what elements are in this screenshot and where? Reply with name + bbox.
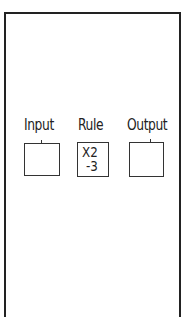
rule-box: X2 -3 xyxy=(77,142,109,177)
rule-operation-subtract: -3 xyxy=(86,159,98,173)
rule-operation-multiply: X2 xyxy=(82,145,98,159)
input-box[interactable] xyxy=(24,143,60,176)
input-label: Input xyxy=(24,116,54,134)
output-label: Output xyxy=(127,116,167,134)
output-box[interactable] xyxy=(129,142,164,177)
rule-label: Rule xyxy=(78,116,103,134)
